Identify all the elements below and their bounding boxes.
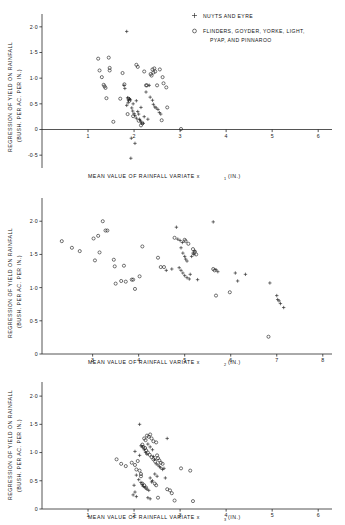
data-point-circle xyxy=(267,335,270,338)
data-point-plus xyxy=(183,274,186,277)
data-point-plus xyxy=(139,106,142,109)
x-axis-label-unit: (IN.) xyxy=(228,359,241,365)
data-point-circle xyxy=(168,489,171,492)
y-axis-label-line2: (BUSH. PER AC. PER IN.) xyxy=(16,255,22,328)
y-tick-label: -0·5 xyxy=(28,152,38,158)
y-tick-label: 0·5 xyxy=(30,318,38,324)
data-point-plus xyxy=(175,226,178,229)
data-point-plus xyxy=(151,448,154,451)
data-point-circle xyxy=(162,265,165,268)
data-point-circle xyxy=(124,465,127,468)
data-point-circle xyxy=(138,275,141,278)
data-point-circle xyxy=(187,242,190,245)
data-point-circle xyxy=(100,76,103,79)
data-point-circle xyxy=(113,265,116,268)
data-point-plus xyxy=(216,270,219,273)
y-tick-label: 2·0 xyxy=(30,24,38,30)
data-point-circle xyxy=(135,468,138,471)
data-point-plus xyxy=(148,445,151,448)
data-point-circle xyxy=(101,220,104,223)
y-axis-label-1: REGRESSION OF YIELD ON RAINFALL (BUSH. P… xyxy=(7,42,22,152)
x-tick-label: 3 xyxy=(179,133,182,139)
y-axis-label-line1: REGRESSION OF YIELD ON RAINFALL xyxy=(7,390,13,500)
data-point-plus xyxy=(181,271,184,274)
data-point-plus xyxy=(179,269,182,272)
data-point-plus xyxy=(189,273,192,276)
data-point-plus xyxy=(234,271,237,274)
data-point-circle xyxy=(97,57,100,60)
x-axis-label-text: MEAN VALUE OF RAINFALL VARIATE x xyxy=(88,359,200,365)
data-point-circle xyxy=(119,97,122,100)
data-point-plus xyxy=(146,442,149,445)
x-axis-label-2: MEAN VALUE OF RAINFALL VARIATE x 2 (IN.) xyxy=(88,359,241,367)
data-point-circle xyxy=(78,250,81,253)
data-point-plus xyxy=(148,95,151,98)
y-tick-label: 1·5 xyxy=(30,251,38,257)
figure-three-scatter-panels: NUYTS AND EYRE FLINDERS, GOYDER, YORKE, … xyxy=(0,0,345,525)
data-point-plus xyxy=(153,472,156,475)
data-point-circle xyxy=(173,236,176,239)
x-axis-label-1: MEAN VALUE OF RAINFALL VARIATE x 1 (IN.) xyxy=(88,173,241,181)
data-point-plus xyxy=(123,87,126,90)
y-tick-label: 0 xyxy=(35,506,38,512)
x-axis-label-text: MEAN VALUE OF RAINFALL VARIATE x xyxy=(88,173,200,179)
data-point-circle xyxy=(150,437,153,440)
x-tick-label: 6 xyxy=(317,512,320,518)
legend-label-flinders-line2: PYAP, AND PINNAROO xyxy=(210,37,272,43)
data-point-circle xyxy=(156,256,159,259)
data-point-plus xyxy=(165,269,168,272)
data-point-circle xyxy=(191,500,194,503)
data-point-plus xyxy=(177,266,180,269)
x-axis-label-subscript: 3 xyxy=(224,518,226,522)
legend-label-nuyts-eyre: NUYTS AND EYRE xyxy=(203,13,253,19)
legend-marker-plus xyxy=(192,13,197,18)
axes-1: 123456-0·500·51·01·52·0 xyxy=(28,14,332,168)
y-tick-label: 1·0 xyxy=(30,75,38,81)
data-point-plus xyxy=(129,157,132,160)
data-point-circle xyxy=(179,127,182,130)
x-tick-label: 6 xyxy=(317,133,320,139)
data-point-plus xyxy=(155,475,158,478)
data-point-circle xyxy=(155,441,158,444)
data-point-plus xyxy=(133,450,136,453)
data-point-plus xyxy=(138,423,141,426)
y-tick-label: 1·5 xyxy=(30,49,38,55)
data-point-plus xyxy=(244,273,247,276)
data-point-plus xyxy=(138,454,141,457)
data-point-plus xyxy=(275,294,278,297)
x-tick-label: 5 xyxy=(271,133,274,139)
x-tick-label: 4 xyxy=(225,133,228,139)
data-point-circle xyxy=(124,280,127,283)
chart-panel-variate-3: REGRESSION OF YIELD ON RAINFALL (BUSH. P… xyxy=(0,372,345,525)
data-point-circle xyxy=(98,251,101,254)
x-tick-label: 1 xyxy=(87,133,90,139)
data-point-plus xyxy=(135,473,138,476)
data-point-plus xyxy=(179,246,182,249)
data-point-plus xyxy=(164,476,167,479)
y-tick-label: 2·0 xyxy=(30,393,38,399)
data-point-circle xyxy=(189,469,192,472)
data-point-circle xyxy=(107,56,110,59)
data-point-plus xyxy=(151,99,154,102)
axes-3: 12345600·51·01·52·0 xyxy=(30,382,332,518)
x-axis-label-text: MEAN VALUE OF RAINFALL VARIATE x xyxy=(88,514,200,520)
data-point-circle xyxy=(165,86,168,89)
data-point-circle xyxy=(112,120,115,123)
y-tick-label: 2·0 xyxy=(30,218,38,224)
data-point-circle xyxy=(166,106,169,109)
data-point-plus xyxy=(133,142,136,145)
data-point-plus xyxy=(135,99,138,102)
data-point-circle xyxy=(154,460,157,463)
data-points-1 xyxy=(97,30,183,160)
data-point-plus xyxy=(142,115,145,118)
scatter-plot-2: REGRESSION OF YIELD ON RAINFALL (BUSH. P… xyxy=(0,186,345,372)
data-point-plus xyxy=(236,279,239,282)
data-point-circle xyxy=(115,458,118,461)
data-point-plus xyxy=(146,118,149,121)
data-point-circle xyxy=(60,240,63,243)
legend-group-1: NUYTS AND EYRE FLINDERS, GOYDER, YORKE, … xyxy=(192,13,305,44)
data-point-circle xyxy=(158,68,161,71)
data-point-circle xyxy=(121,71,124,74)
data-point-circle xyxy=(114,282,117,285)
y-axis-label-line1: REGRESSION OF YIELD ON RAINFALL xyxy=(7,228,13,338)
